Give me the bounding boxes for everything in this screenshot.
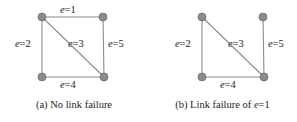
edge-label-e5: e=5 — [108, 39, 124, 50]
edge-label-e2: e=2 — [175, 39, 191, 50]
bottom-right-node — [100, 73, 108, 81]
caption-a: (a) No link failure — [0, 100, 148, 111]
top-left-node — [38, 13, 46, 21]
top-right-node — [99, 13, 107, 21]
caption-text-b: Link failure of — [190, 99, 254, 110]
edge-label-e4: e=4 — [220, 80, 236, 91]
caption-label-a: (a) — [36, 99, 50, 110]
caption-b: (b) Link failure of e=1 — [148, 100, 297, 111]
caption-text-a: No link failure — [50, 99, 112, 110]
bottom-left-node — [38, 73, 46, 81]
bottom-right-node — [260, 73, 268, 81]
edge-label-e1: e=1 — [60, 5, 76, 16]
bottom-left-node — [198, 73, 206, 81]
edge-label-e5: e=5 — [268, 39, 284, 50]
edge-label-e3: e=3 — [228, 39, 244, 50]
edge-label-e3: e=3 — [68, 39, 84, 50]
edge-e5-right — [103, 17, 104, 77]
edge-e5-right — [263, 17, 264, 77]
panel-b: e=2e=3e=4e=5(b) Link failure of e=1 — [148, 0, 297, 122]
top-left-node — [198, 13, 206, 21]
caption-edge-ref-b: e=1 — [254, 99, 270, 110]
caption-label-b: (b) — [175, 99, 190, 110]
edge-label-e4: e=4 — [60, 80, 76, 91]
figure-container: e=1e=2e=3e=4e=5(a) No link failure e=2e=… — [0, 0, 297, 122]
top-right-node — [259, 13, 267, 21]
panel-a: e=1e=2e=3e=4e=5(a) No link failure — [0, 0, 148, 122]
edge-label-e2: e=2 — [15, 39, 31, 50]
